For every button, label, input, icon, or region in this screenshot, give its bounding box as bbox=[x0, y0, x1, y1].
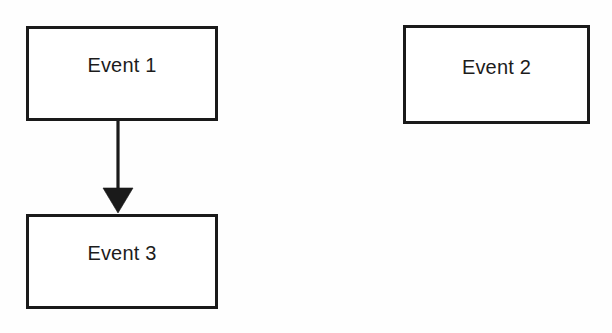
node-event-1[interactable]: Event 1 bbox=[26, 26, 218, 121]
diagram-canvas: Event 1 Event 2 Event 3 bbox=[0, 0, 612, 333]
node-event-3[interactable]: Event 3 bbox=[26, 214, 218, 309]
edge-event-1-to-event-3[interactable] bbox=[103, 121, 133, 213]
node-event-2[interactable]: Event 2 bbox=[403, 25, 590, 124]
node-event-1-label: Event 1 bbox=[87, 54, 156, 77]
node-event-2-label: Event 2 bbox=[462, 56, 531, 79]
arrowhead-icon bbox=[103, 188, 133, 213]
node-event-3-label: Event 3 bbox=[87, 242, 156, 265]
